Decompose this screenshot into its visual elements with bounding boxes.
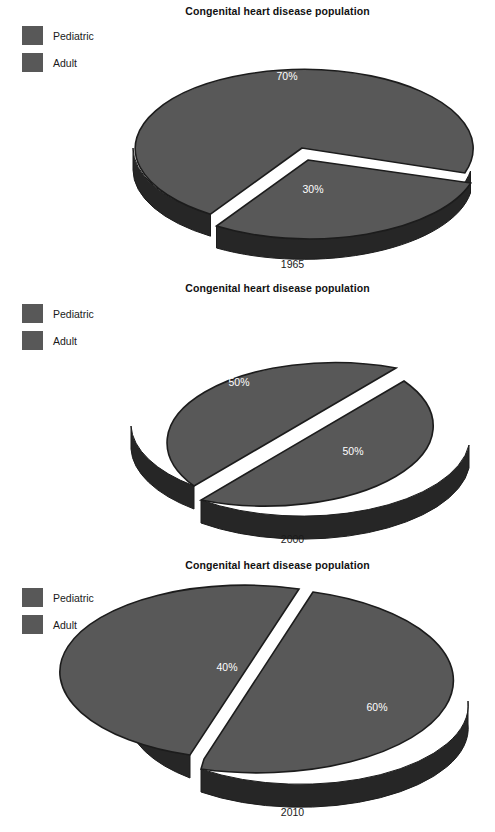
- chart-page: Congenital heart disease population Pedi…: [0, 0, 495, 832]
- slice-label-adult: 30%: [302, 183, 323, 195]
- slice-label-pediatric: 50%: [228, 376, 249, 388]
- year-label: 2010: [0, 806, 495, 818]
- pie-chart-2000: 50% 50%: [0, 278, 495, 556]
- slice-label-adult: 50%: [342, 445, 363, 457]
- year-label: 1965: [0, 258, 495, 270]
- slice-label-pediatric: 40%: [216, 661, 237, 673]
- chart-panel-2010: Congenital heart disease population Pedi…: [0, 556, 495, 832]
- year-label: 2000: [0, 533, 495, 545]
- pie-svg: 70% 30%: [0, 0, 495, 278]
- pie-svg: 50% 50%: [0, 278, 495, 556]
- pie-chart-1965: 70% 30%: [0, 0, 495, 278]
- chart-panel-2000: Congenital heart disease population Pedi…: [0, 278, 495, 556]
- slice-label-adult: 60%: [366, 701, 387, 713]
- chart-panel-1965: Congenital heart disease population Pedi…: [0, 0, 495, 278]
- pie-svg: 40% 60%: [0, 556, 495, 832]
- pie-chart-2010: 40% 60%: [0, 556, 495, 832]
- slice-label-pediatric: 70%: [276, 70, 297, 82]
